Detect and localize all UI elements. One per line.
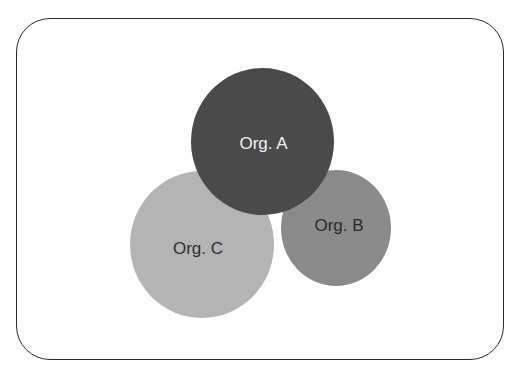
label-org-a: Org. A: [239, 134, 287, 154]
label-org-b: Org. B: [314, 216, 363, 236]
label-org-c: Org. C: [173, 239, 223, 259]
circle-org-a: Org. A: [191, 68, 334, 215]
